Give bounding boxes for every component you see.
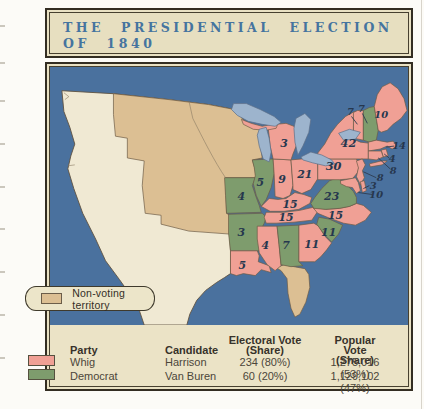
votes-massachusetts: 14 [392,140,406,151]
votes-vermont: 7 [347,106,354,117]
page-edge-mark [0,314,5,316]
book-page: THE PRESIDENTIAL ELECTION OF 1840 [0,0,424,409]
page-edge-mark [0,25,5,27]
header-electoral-vote: Electoral Vote (Share) [229,335,302,355]
votes-arkansas: 3 [238,226,246,239]
votes-virginia: 23 [323,190,340,203]
votes-illinois: 5 [256,176,264,189]
title-line2: OF 1840 [63,36,393,52]
votes-ohio: 21 [296,168,312,181]
whig-electoral-vote: 234 (80%) [240,356,291,368]
page-title: THE PRESIDENTIAL ELECTION OF 1840 [63,20,393,52]
page-edge-mark [0,357,5,359]
democrat-color-swatch [28,369,55,380]
header-popular-line1: Popular Vote [329,335,382,355]
votes-indiana: 9 [278,173,286,186]
votes-south-carolina: 11 [321,226,336,239]
page-edge-line [421,0,422,409]
map-panel: 10 7 7 14 4 8 42 8 30 3 10 23 15 11 11 7… [45,62,413,391]
votes-georgia: 11 [304,238,319,251]
democrat-party-label: Democrat [70,370,118,382]
title-panel: THE PRESIDENTIAL ELECTION OF 1840 [45,8,413,58]
title-line1: THE PRESIDENTIAL ELECTION [63,20,393,36]
votes-pennsylvania: 30 [326,159,342,173]
results-table: Party Candidate Electoral Vote (Share) P… [50,329,408,384]
whig-candidate: Harrison [165,356,207,368]
nonvoting-territory-swatch [41,293,62,304]
votes-michigan: 3 [280,137,288,150]
votes-new-york: 42 [341,136,357,150]
votes-north-carolina: 15 [328,209,343,222]
democrat-popular-vote: 1,129,102 (47%) [329,370,382,394]
votes-connecticut: 8 [390,165,397,176]
votes-alabama: 7 [282,239,290,252]
whig-color-swatch [28,355,55,366]
votes-louisiana: 5 [239,259,247,272]
nonvoting-territory-label: Non-voting territory [72,287,154,311]
votes-mississippi: 4 [261,239,269,252]
democrat-candidate: Van Buren [165,370,216,382]
votes-rhode-island: 4 [389,153,396,164]
votes-maryland: 10 [369,189,383,200]
header-electoral-line2: (Share) [229,345,302,355]
page-edge-mark [0,143,5,145]
votes-new-jersey: 8 [377,172,384,183]
page-edge-mark [0,62,5,64]
votes-maine: 10 [374,109,388,120]
democrat-electoral-vote: 60 (20%) [243,370,288,382]
votes-missouri: 4 [238,190,246,203]
page-edge-mark [0,271,5,273]
page-edge-mark [0,100,5,102]
page-edge-mark [0,228,5,230]
votes-kentucky: 15 [282,198,297,211]
map-legend: Non-voting territory [25,286,155,311]
votes-tennessee: 15 [278,211,293,224]
votes-new-hampshire: 7 [358,103,365,114]
header-party: Party [70,345,98,355]
header-candidate: Candidate [165,345,218,355]
page-edge-mark [0,186,5,188]
whig-party-label: Whig [70,356,95,368]
